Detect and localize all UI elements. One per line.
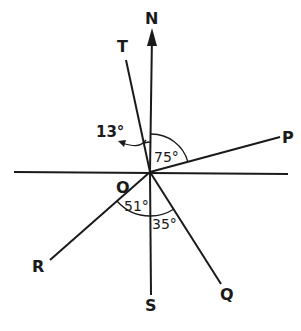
label-R: R bbox=[32, 257, 44, 276]
label-S: S bbox=[145, 296, 157, 315]
label-N: N bbox=[145, 9, 158, 28]
label-Q: Q bbox=[220, 285, 234, 304]
line-ON bbox=[150, 36, 152, 172]
line-OR bbox=[50, 172, 150, 260]
angle-35: 35° bbox=[152, 216, 177, 232]
label-O: O bbox=[116, 178, 130, 197]
north-arrow-icon bbox=[147, 28, 157, 46]
angle-75: 75° bbox=[154, 149, 179, 165]
line-OT bbox=[126, 60, 150, 172]
bearing-diagram: N T P O R S Q 13° 75° 51° 35° bbox=[0, 0, 301, 331]
label-P: P bbox=[282, 128, 294, 147]
angle-51: 51° bbox=[124, 198, 149, 214]
angle-13: 13° bbox=[96, 123, 124, 141]
label-T: T bbox=[117, 37, 128, 56]
arc-SOQ bbox=[150, 209, 174, 216]
line-OS bbox=[150, 172, 151, 295]
arrowhead-icon bbox=[118, 140, 126, 147]
